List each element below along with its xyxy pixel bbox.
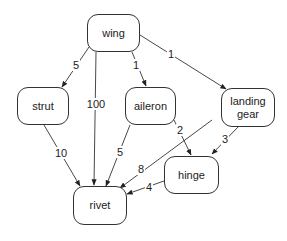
node-landing-gear: landing gear — [221, 88, 275, 127]
node-aileron: aileron — [125, 87, 176, 125]
edge-label-aileron-to-hinge: 2 — [176, 124, 184, 136]
edge-wing-to-landing_gear — [140, 35, 226, 89]
edge-label-hinge-to-rivet: 4 — [145, 181, 153, 193]
edge-label-landing_gear-to-rivet: 8 — [137, 163, 145, 175]
edge-label-aileron-to-rivet: 5 — [116, 146, 124, 158]
node-label: strut — [32, 100, 53, 113]
node-label: landing gear — [228, 95, 268, 121]
node-rivet: rivet — [73, 186, 127, 225]
node-label: wing — [102, 27, 125, 40]
node-wing: wing — [87, 14, 140, 52]
node-label: rivet — [90, 199, 111, 212]
edge-wing-to-rivet — [94, 52, 96, 185]
edge-label-landing_gear-to-hinge: 3 — [221, 133, 229, 145]
node-label: hinge — [178, 169, 205, 182]
node-label: aileron — [134, 100, 167, 113]
edge-label-wing-to-strut: 5 — [72, 59, 80, 71]
node-strut: strut — [17, 87, 69, 125]
edge-label-wing-to-landing_gear: 1 — [167, 48, 175, 60]
node-hinge: hinge — [164, 156, 219, 194]
edge-label-wing-to-aileron: 1 — [132, 59, 140, 71]
edge-label-wing-to-rivet: 100 — [86, 98, 106, 110]
edge-label-strut-to-rivet: 10 — [54, 147, 68, 159]
